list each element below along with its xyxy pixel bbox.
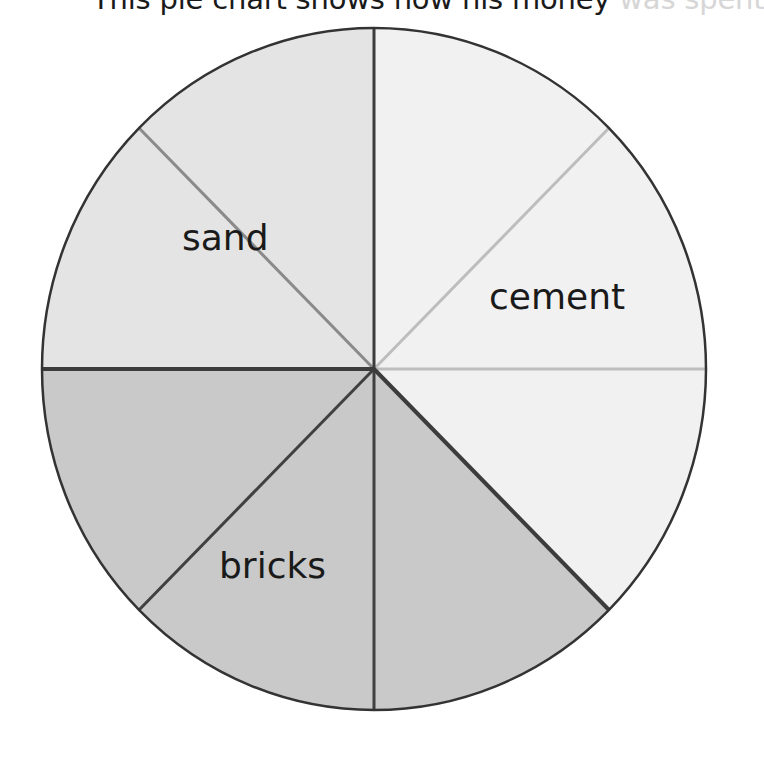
label-bricks: bricks [219,545,326,586]
label-sand: sand [182,217,268,258]
label-cement: cement [489,276,625,317]
